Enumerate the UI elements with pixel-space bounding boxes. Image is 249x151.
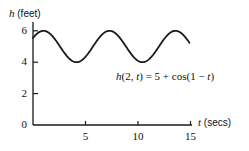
y-tick-label: 0: [13, 118, 27, 130]
x-tick-label: 5: [77, 130, 95, 142]
x-tick-label: 10: [129, 130, 147, 142]
y-tick-label: 2: [13, 87, 27, 99]
chart-figure: h (feet) t (secs) h(2, t) = 5 + cos(1 − …: [0, 0, 249, 151]
data-curve: [33, 31, 189, 62]
plot-area: [0, 0, 249, 151]
y-tick-label: 6: [13, 24, 27, 36]
axes-group: [33, 22, 192, 125]
x-tick-label: 15: [182, 130, 200, 142]
y-tick-marks: [33, 31, 38, 94]
y-tick-label: 4: [13, 55, 27, 67]
